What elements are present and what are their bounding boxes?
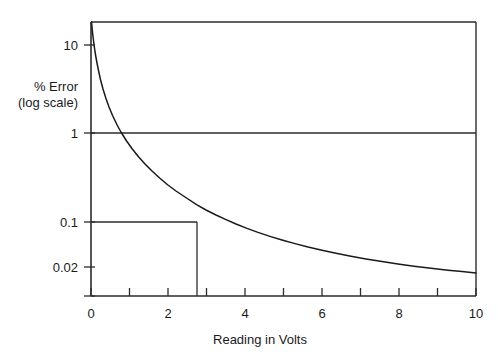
y-tick-label-10: 10 — [26, 38, 78, 53]
error-curve — [92, 22, 477, 273]
y-tick-label-0p1: 0.1 — [26, 215, 78, 230]
y-tick-label-1: 1 — [26, 126, 78, 141]
x-axis-title: Reading in Volts — [140, 332, 380, 347]
x-tick-label-6: 6 — [302, 306, 342, 321]
x-tick-label-0: 0 — [71, 306, 111, 321]
chart-container: 10 1 0.1 0.02 % Error (log scale) 0 2 4 … — [0, 0, 498, 363]
x-tick-label-8: 8 — [379, 306, 419, 321]
x-tick-label-10: 10 — [456, 306, 496, 321]
x-tick-label-2: 2 — [148, 306, 188, 321]
y-axis-title-line2: (log scale) — [0, 95, 78, 111]
x-tick-label-4: 4 — [225, 306, 265, 321]
y-axis-title-line1: % Error — [6, 79, 78, 95]
y-tick-label-0p02: 0.02 — [26, 260, 78, 275]
